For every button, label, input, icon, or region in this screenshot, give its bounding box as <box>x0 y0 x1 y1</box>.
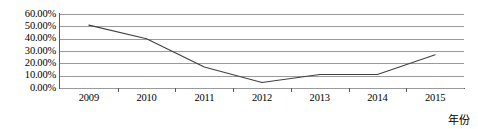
x-axis-tick-label: 2009 <box>79 92 99 104</box>
gridline <box>60 88 464 89</box>
x-axis-tick-label: 2015 <box>425 92 445 104</box>
x-axis-tick-label: 2012 <box>252 92 272 104</box>
x-axis-tick-label: 2010 <box>136 92 156 104</box>
line-chart: 60.00% 50.00% 40.00% 30.00% 20.00% 10.00… <box>0 0 478 129</box>
x-axis-title: 年份 <box>448 115 470 127</box>
y-axis-tick-label: 20.00% <box>0 58 56 69</box>
y-axis-tick-label: 50.00% <box>0 21 56 32</box>
y-axis-tick-label: 60.00% <box>0 9 56 20</box>
y-axis-tick-label: 10.00% <box>0 70 56 81</box>
y-axis-tick-label: 40.00% <box>0 33 56 44</box>
y-axis-tick-labels: 60.00% 50.00% 40.00% 30.00% 20.00% 10.00… <box>0 0 56 129</box>
x-axis-tick-labels: 2009 2010 2011 2012 2013 2014 2015 <box>60 92 464 108</box>
data-series-line <box>60 14 464 88</box>
plot-area <box>60 14 464 88</box>
x-axis-tick-label: 2014 <box>367 92 387 104</box>
x-axis-tick-label: 2011 <box>194 92 214 104</box>
x-axis-tick-label: 2013 <box>310 92 330 104</box>
y-axis-tick-label: 30.00% <box>0 46 56 57</box>
y-axis-tick-label: 0.00% <box>0 83 56 94</box>
